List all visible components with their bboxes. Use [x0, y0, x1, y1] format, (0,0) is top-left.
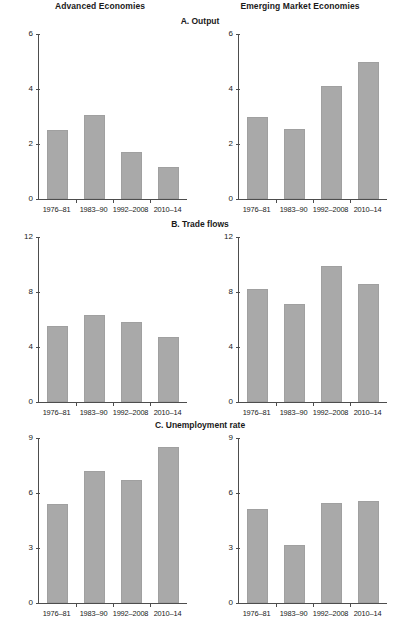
x-axis-ticks	[39, 402, 187, 406]
bar-slot	[313, 438, 350, 603]
bar-slot	[276, 438, 313, 603]
x-axis-label: 1992–2008	[112, 408, 149, 417]
x-axis-label: 1992–2008	[312, 205, 349, 214]
x-axis-label: 2010–14	[149, 609, 186, 618]
bar	[84, 115, 105, 199]
x-axis-label: 2010–14	[149, 205, 186, 214]
bar-slot	[276, 237, 313, 402]
bar	[121, 152, 142, 199]
x-axis-tick-mark	[276, 199, 277, 203]
x-axis-tick-mark	[150, 603, 151, 607]
bar-slot	[39, 438, 76, 603]
y-axis-tick-label: 9	[29, 432, 33, 443]
bar	[247, 117, 268, 200]
x-axis-tick-mark	[350, 402, 351, 406]
bar-series	[39, 237, 187, 402]
x-axis-tick-mark	[150, 199, 151, 203]
x-axis-label: 1976–81	[238, 408, 275, 417]
bar	[84, 315, 105, 402]
bar-slot	[350, 34, 387, 199]
bar-slot	[239, 34, 276, 199]
x-axis-tick-mark	[313, 199, 314, 203]
x-axis-tick-mark	[76, 402, 77, 406]
x-axis-label: 1976–81	[38, 408, 75, 417]
x-axis-ticks	[239, 603, 387, 607]
bar-slot	[76, 438, 113, 603]
x-axis-tick-mark	[276, 603, 277, 607]
bar	[121, 322, 142, 402]
x-axis-label: 1976–81	[38, 205, 75, 214]
x-axis-ticks	[239, 199, 387, 203]
x-axis-labels: 1976–811983–901992–20082010–14	[238, 205, 386, 214]
bar	[247, 289, 268, 402]
bar	[284, 304, 305, 402]
x-axis-label: 1983–90	[275, 205, 312, 214]
panel-output: A. Output 02461976–811983–901992–2008201…	[0, 16, 400, 219]
plot-area-b-emerging: 04812	[238, 237, 387, 403]
bar-series	[239, 34, 387, 199]
x-axis-tick-mark	[150, 402, 151, 406]
bar	[284, 545, 305, 603]
y-axis-tick-label: 0	[229, 597, 233, 608]
y-axis-tick-label: 4	[229, 83, 233, 94]
y-axis-tick-label: 12	[24, 231, 33, 242]
y-axis-tick-label: 2	[29, 138, 33, 149]
plot-area-a-advanced: 0246	[38, 34, 187, 200]
y-axis-tick-label: 9	[229, 432, 233, 443]
plot-area-c-advanced: 0369	[38, 438, 187, 604]
y-axis-tick-label: 2	[229, 138, 233, 149]
x-axis-label: 1992–2008	[312, 609, 349, 618]
y-axis-tick-label: 0	[229, 193, 233, 204]
bar-slot	[39, 34, 76, 199]
bar	[47, 130, 68, 199]
y-axis-tick-label: 8	[229, 286, 233, 297]
x-axis-tick-mark	[313, 603, 314, 607]
y-axis-tick-label: 8	[29, 286, 33, 297]
bar-slot	[239, 438, 276, 603]
bar-slot	[150, 34, 187, 199]
x-axis-label: 2010–14	[149, 408, 186, 417]
y-axis-tick-label: 4	[29, 341, 33, 352]
x-axis-ticks	[239, 402, 387, 406]
bar	[158, 337, 179, 402]
bar-slot	[113, 438, 150, 603]
bar	[321, 266, 342, 402]
y-axis-tick-label: 6	[229, 28, 233, 39]
bar	[84, 471, 105, 603]
plot-area-c-emerging: 0369	[238, 438, 387, 604]
bar-series	[39, 438, 187, 603]
bar-series	[239, 438, 387, 603]
x-axis-label: 1983–90	[275, 408, 312, 417]
x-axis-tick-mark	[113, 603, 114, 607]
x-axis-label: 1983–90	[75, 408, 112, 417]
x-axis-ticks	[39, 603, 187, 607]
x-axis-ticks	[39, 199, 187, 203]
bar	[358, 501, 379, 603]
bar-slot	[76, 34, 113, 199]
x-axis-label: 1992–2008	[112, 205, 149, 214]
x-axis-tick-mark	[113, 402, 114, 406]
bar-slot	[113, 237, 150, 402]
x-axis-label: 1983–90	[75, 609, 112, 618]
x-axis-label: 2010–14	[349, 408, 386, 417]
y-axis-tick-label: 6	[229, 487, 233, 498]
y-axis-tick-label: 12	[224, 231, 233, 242]
x-axis-label: 1992–2008	[312, 408, 349, 417]
y-axis-tick-label: 4	[229, 341, 233, 352]
bar-slot	[350, 438, 387, 603]
x-axis-labels: 1976–811983–901992–20082010–14	[238, 408, 386, 417]
bar-slot	[150, 237, 187, 402]
y-axis-tick-label: 4	[29, 83, 33, 94]
bar	[358, 62, 379, 200]
panel-title-trade-flows: B. Trade flows	[0, 219, 400, 229]
bar	[47, 504, 68, 603]
bar	[121, 480, 142, 603]
x-axis-tick-mark	[350, 603, 351, 607]
column-header-advanced: Advanced Economies	[0, 1, 200, 11]
x-axis-tick-mark	[113, 199, 114, 203]
x-axis-label: 2010–14	[349, 609, 386, 618]
column-header-emerging: Emerging Market Economies	[200, 1, 400, 11]
x-axis-label: 1992–2008	[112, 609, 149, 618]
x-axis-label: 1976–81	[38, 609, 75, 618]
